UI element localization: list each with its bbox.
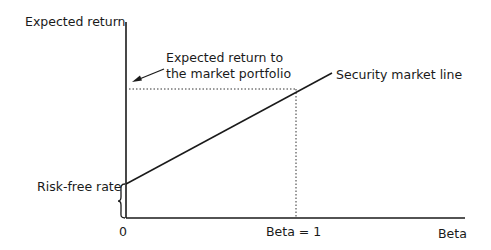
beta-one-label: Beta = 1 xyxy=(266,224,321,239)
risk-free-label: Risk-free rate xyxy=(37,179,121,194)
security-market-line xyxy=(126,73,332,184)
arrow-icon xyxy=(132,69,164,82)
x-axis-label: Beta xyxy=(438,226,467,241)
y-axis-label: Expected return xyxy=(25,14,126,29)
market-return-label-line2: the market portfolio xyxy=(166,66,291,81)
origin-label: 0 xyxy=(119,224,127,239)
market-return-label-line1: Expected return to xyxy=(166,50,283,65)
sml-label: Security market line xyxy=(336,67,462,82)
sml-diagram xyxy=(0,0,491,250)
